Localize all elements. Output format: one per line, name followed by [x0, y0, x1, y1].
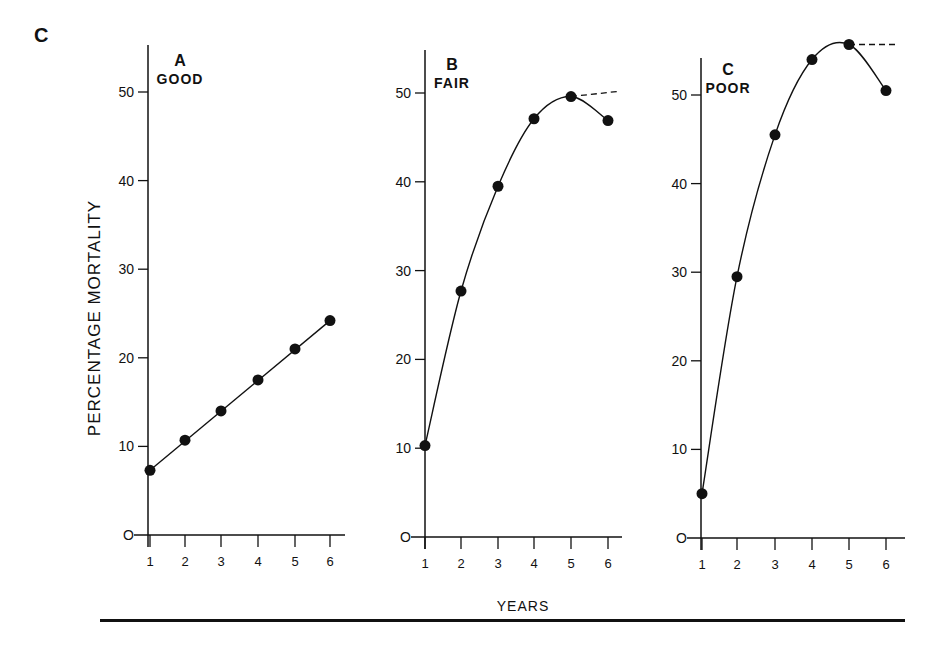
panel-a-x-tick-label: 6	[326, 554, 333, 569]
panel-a-y-tick-label: O	[123, 527, 134, 543]
panel-c-x-tick-label: 5	[845, 557, 852, 572]
panel-c-x-tick-label: 2	[733, 557, 740, 572]
panel-a-y-tick-label: 10	[118, 438, 134, 454]
panel-c-y-tick-label: 10	[671, 441, 687, 457]
panel-b-y-tick-label: 20	[395, 351, 411, 367]
panel-c-data-point	[732, 271, 743, 282]
panel-a-x-tick-label: 3	[217, 554, 224, 569]
panel-b-data-point	[420, 440, 431, 451]
panel-b-x-tick-label: 1	[421, 556, 428, 571]
panel-b-data-point	[566, 91, 577, 102]
panel-b-x-tick-label: 4	[530, 556, 537, 571]
panel-a-letter: A	[174, 52, 186, 69]
panel-b-x-tick-label: 5	[567, 556, 574, 571]
panel-b-title: FAIR	[434, 75, 470, 91]
panel-a-data-point	[253, 374, 264, 385]
panel-c-y-tick-label: 50	[671, 87, 687, 103]
panel-b-data-point	[493, 181, 504, 192]
panel-b-y-tick-label: 30	[395, 263, 411, 279]
panel-c-x-tick-label: 4	[808, 557, 815, 572]
panel-a-x-tick-label: 2	[181, 554, 188, 569]
panel-b-y-tick-label: 50	[395, 85, 411, 101]
panel-a-title: GOOD	[157, 71, 204, 87]
panel-b-x-tick-label: 6	[604, 556, 611, 571]
panel-c-y-tick-label: 40	[671, 176, 687, 192]
panel-c-y-tick-label: 30	[671, 264, 687, 280]
panel-a-data-point	[180, 435, 191, 446]
panel-c-data-point	[697, 488, 708, 499]
panel-a-x-tick-label: 5	[291, 554, 298, 569]
panel-c-curve	[702, 43, 886, 494]
panel-b-dashed-extension	[571, 91, 620, 96]
panel-a-y-tick-label: 20	[118, 350, 134, 366]
panel-a-data-point	[325, 315, 336, 326]
panel-a-data-point	[145, 465, 156, 476]
panel-c-x-tick-label: 6	[882, 557, 889, 572]
panel-b-x-tick-label: 3	[494, 556, 501, 571]
panel-b-letter: B	[446, 56, 458, 73]
panel-c-data-point	[881, 85, 892, 96]
panel-a-x-tick-label: 1	[146, 554, 153, 569]
panel-c-y-tick-label: 20	[671, 353, 687, 369]
panel-c-y-tick-label: O	[676, 530, 687, 546]
panel-a-y-tick-label: 50	[118, 84, 134, 100]
panel-b-y-tick-label: 40	[395, 174, 411, 190]
panel-c-title: POOR	[705, 80, 750, 96]
panel-b-x-tick-label: 2	[457, 556, 464, 571]
panel-b-y-tick-label: O	[400, 529, 411, 545]
panel-b-data-point	[456, 286, 467, 297]
panel-a-curve	[150, 321, 330, 471]
panel-b-data-point	[529, 113, 540, 124]
panel-c-data-point	[770, 129, 781, 140]
panel-b-data-point	[603, 115, 614, 126]
panel-c-x-tick-label: 3	[771, 557, 778, 572]
panel-c-letter: C	[722, 61, 734, 78]
panel-a-data-point	[290, 343, 301, 354]
panel-c-x-tick-label: 1	[698, 557, 705, 572]
panel-b-curve	[425, 97, 608, 446]
panel-a-y-tick-label: 30	[118, 261, 134, 277]
panel-a-data-point	[216, 405, 227, 416]
panel-b-y-tick-label: 10	[395, 440, 411, 456]
chart-figure: O1020304050123456AGOODO1020304050123456B…	[0, 0, 943, 651]
panel-a-x-tick-label: 4	[254, 554, 261, 569]
panel-c-data-point	[844, 39, 855, 50]
panel-a-y-tick-label: 40	[118, 173, 134, 189]
panel-c-data-point	[807, 54, 818, 65]
